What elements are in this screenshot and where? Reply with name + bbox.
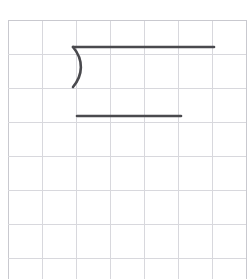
stroke-layer [73, 47, 214, 116]
grid-canvas [0, 0, 249, 279]
grid-lines [8, 20, 247, 279]
practice-sheet: 一二 一二 一 [0, 0, 249, 279]
